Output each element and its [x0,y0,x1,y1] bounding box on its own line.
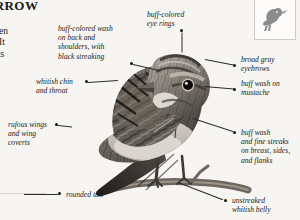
leader-dot-tail [58,192,61,195]
page-title: SPARROW [0,0,48,12]
callout-eyebrows: broad gray eyebrows [241,55,300,73]
leader-dot-eyebrows [233,64,236,67]
callout-tail: rounded tail [66,190,130,199]
perched-sparrow-silhouette-icon [255,0,293,37]
callout-breast-sides-flanks: buff wash and fine streaks on breast, si… [241,128,300,165]
leader-dot-wings-coverts [55,123,58,126]
callout-eye-rings: buff-colored eye rings [147,10,209,28]
leader-line-eye-rings [181,33,182,53]
leader-dot-back-shoulders [130,62,133,65]
callout-belly: unstreaked whitish belly [232,196,296,214]
leader-dot-chin-throat [85,80,88,83]
leader-dot-belly [224,199,227,202]
callout-wings-coverts: rufous wings and wing coverts [8,120,72,148]
callout-chin-throat: whitish chin and throat [36,77,102,95]
field-guide-page: SPARROW ogs and tish, often turbed. It u… [0,0,300,220]
leader-dot-eye-rings [180,29,183,32]
leader-dot-mustache [233,88,236,91]
callout-back-shoulders: buff-colored wash on back and shoulders,… [58,24,134,61]
leader-line-tail [24,194,58,195]
callout-mustache: buff wash on mustache [241,79,300,97]
leader-dot-breast-sides-flanks [233,131,236,134]
species-thumbnail [254,0,296,40]
